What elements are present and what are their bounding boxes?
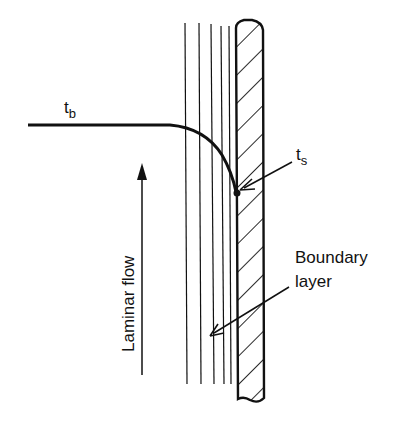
streamlines xyxy=(185,23,231,384)
laminar-flow-arrow xyxy=(137,163,147,375)
boundary-layer-diagram: tb ts Laminar flow Boundary layer xyxy=(0,0,407,425)
streamline-5 xyxy=(229,26,231,384)
laminar-flow-label: Laminar flow xyxy=(119,255,138,352)
streamline-2 xyxy=(199,23,201,384)
boundary-layer-label-line2: layer xyxy=(295,272,332,291)
streamline-4 xyxy=(221,26,224,384)
temperature-profile-curve xyxy=(28,125,236,192)
arrowhead-up-icon xyxy=(137,163,147,180)
wall xyxy=(230,15,270,410)
surface-temperature-label: ts xyxy=(296,145,308,168)
boundary-layer-label-line1: Boundary xyxy=(295,248,368,267)
bulk-temperature-label: tb xyxy=(64,98,76,121)
surface-point xyxy=(234,190,241,197)
streamline-1 xyxy=(185,23,187,384)
